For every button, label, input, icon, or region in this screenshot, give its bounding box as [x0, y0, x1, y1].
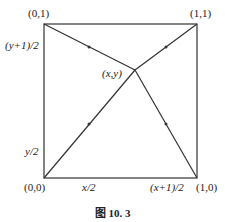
corner-label-bottom-left: (0,0)	[24, 182, 45, 193]
arrow-marker	[88, 46, 91, 49]
edge-label-bottom-right: (x+1)/2	[150, 182, 184, 193]
arrow-marker	[165, 46, 168, 49]
edge-label-left-upper: (y+1)/2	[5, 40, 39, 51]
figure-caption: 图 10. 3	[0, 204, 225, 220]
corner-label-bottom-right: (1,0)	[196, 182, 217, 193]
corner-label-top-right: (1,1)	[190, 8, 211, 19]
edge-label-left-lower: y/2	[25, 146, 38, 157]
unit-square	[44, 24, 197, 178]
corner-label-top-left: (0,1)	[28, 8, 49, 19]
arrow-marker	[165, 123, 168, 126]
arrow-marker	[88, 123, 91, 126]
center-point-label: (x,y)	[102, 68, 122, 79]
edge-label-bottom-left: x/2	[82, 182, 95, 193]
